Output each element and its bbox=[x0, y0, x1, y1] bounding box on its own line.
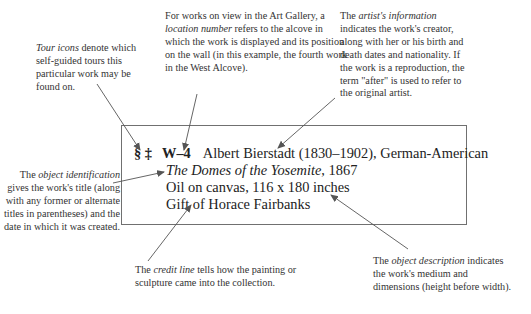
callout-text: indicates the work's creator, along with… bbox=[340, 23, 464, 99]
object-identification: The Domes of the Yosemite, 1867 bbox=[166, 161, 357, 179]
callout-prefix: The bbox=[20, 169, 38, 180]
callout-term: object identification bbox=[38, 169, 120, 180]
work-title: The Domes of the Yosemite bbox=[166, 162, 321, 178]
callout-term: location number bbox=[165, 23, 232, 34]
object-description: Oil on canvas, 116 x 180 inches bbox=[166, 178, 350, 196]
tour-icons: § ‡ bbox=[134, 145, 152, 161]
artist-information: Albert Bierstadt (1830–1902), German-Ame… bbox=[203, 145, 488, 161]
credit-line-callout: The credit line tells how the painting o… bbox=[135, 264, 305, 290]
callout-prefix: The bbox=[340, 10, 358, 21]
callout-prefix: The bbox=[373, 255, 391, 266]
callout-text: gives the work's title (along with any f… bbox=[4, 182, 120, 232]
label-header-line: § ‡W–4Albert Bierstadt (1830–1902), Germ… bbox=[134, 144, 488, 162]
location-number: W–4 bbox=[162, 145, 191, 161]
callout-prefix: The bbox=[135, 264, 153, 275]
object-description-callout: The object description indicates the wor… bbox=[373, 255, 513, 294]
location-number-callout: For works on view in the Art Gallery, a … bbox=[165, 10, 347, 75]
credit-line: Gift of Horace Fairbanks bbox=[166, 195, 310, 213]
callout-term: credit line bbox=[153, 264, 194, 275]
callout-term: object description bbox=[391, 255, 464, 266]
object-identification-callout: The object identification gives the work… bbox=[0, 169, 120, 234]
tour-icons-callout: Tour icons denote which self-guided tour… bbox=[36, 42, 156, 94]
callout-prefix: For works on view in the Art Gallery, a bbox=[165, 10, 325, 21]
callout-term: artist's information bbox=[358, 10, 436, 21]
artist-information-callout: The artist's information indicates the w… bbox=[340, 10, 475, 100]
callout-term: Tour icons bbox=[36, 42, 79, 53]
work-date: , 1867 bbox=[321, 162, 357, 178]
